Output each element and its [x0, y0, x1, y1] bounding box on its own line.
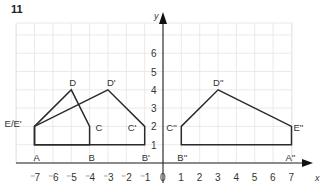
y-tick-label: 3 [151, 103, 157, 114]
y-tick-label: 1 [151, 140, 157, 151]
point-label: A'' [285, 152, 295, 163]
y-tick-label: 4 [151, 85, 157, 96]
point-label: E/E' [5, 118, 22, 129]
y-axis-label: y [153, 11, 159, 21]
point-label: C [96, 122, 103, 133]
point-label: B'' [177, 152, 187, 163]
x-tick-label: ⁻7 [30, 172, 41, 183]
coordinate-plane: xy ABCDE/E'B'C'D'B''C''D''E''A'' ⁻7⁻6⁻5⁻… [0, 0, 329, 183]
x-tick-label: 7 [288, 172, 294, 183]
point-label: D [69, 77, 76, 88]
point-label: D'' [213, 77, 224, 88]
x-tick-label: 1 [178, 172, 184, 183]
x-tick-label: 3 [215, 172, 221, 183]
x-tick-label: 2 [197, 172, 203, 183]
x-axis-arrow-icon [302, 159, 313, 167]
x-tick-label: ⁻3 [103, 172, 114, 183]
y-tick-label: 6 [151, 48, 157, 59]
x-tick-label: ⁻4 [85, 172, 96, 183]
x-tick-label: ⁻2 [121, 172, 132, 183]
axes: xy [16, 11, 320, 183]
point-label: D' [107, 77, 116, 88]
point-label: B [89, 152, 95, 163]
shape-abcde [35, 90, 90, 145]
y-axis-arrow-icon [159, 12, 167, 24]
point-label: A [34, 152, 41, 163]
x-tick-label: ⁻5 [66, 172, 77, 183]
x-tick-label: 4 [233, 172, 239, 183]
y-tick-label: 2 [151, 121, 157, 132]
x-tick-label: ⁻1 [140, 172, 151, 183]
x-axis-label: x [314, 173, 320, 183]
y-tick-label: 5 [151, 67, 157, 78]
point-label: E'' [293, 122, 303, 133]
point-label: B' [142, 152, 150, 163]
point-label: C' [128, 122, 137, 133]
x-tick-label: 5 [252, 172, 258, 183]
x-tick-label: 6 [270, 172, 276, 183]
x-tick-label: 0 [160, 172, 166, 183]
x-tick-label: ⁻6 [48, 172, 59, 183]
point-label: C'' [166, 122, 177, 133]
